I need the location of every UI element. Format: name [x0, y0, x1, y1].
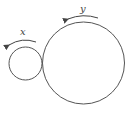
y-rotation-arrow: [68, 16, 98, 19]
large-circle: [43, 22, 125, 104]
x-rotation-arrow: [9, 40, 36, 45]
x-label: x: [20, 26, 26, 37]
diagram-canvas: x y: [0, 0, 138, 114]
small-circle: [9, 47, 42, 80]
y-label: y: [79, 3, 86, 14]
